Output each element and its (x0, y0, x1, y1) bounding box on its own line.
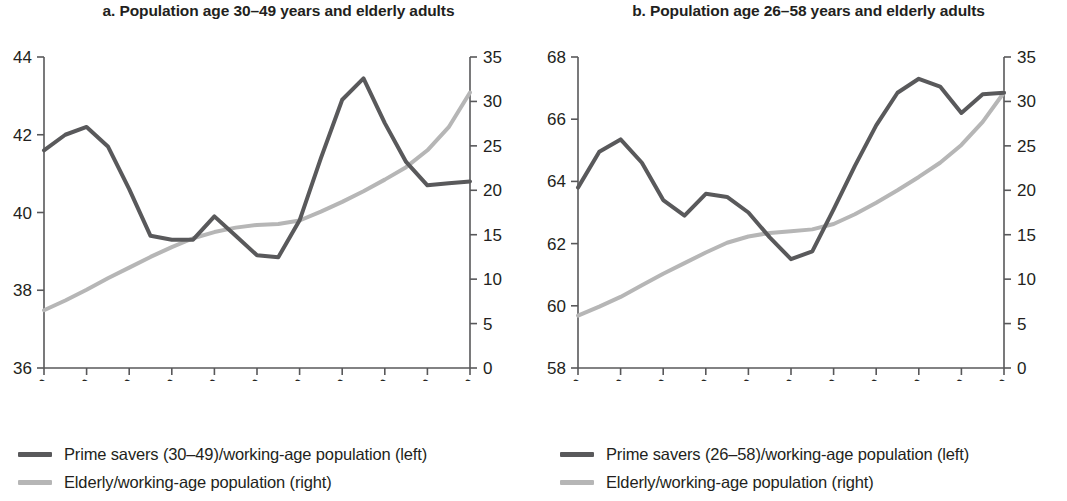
legend-swatch-elderly (18, 480, 52, 485)
panel-b-plot: 5860626466680510152025303519501960197019… (534, 26, 1067, 381)
panel-a: a. Population age 30–49 years and elderl… (0, 0, 533, 501)
ytick-right-35: 35 (1017, 48, 1036, 67)
xtick-1990: 1990 (187, 375, 223, 381)
legend-swatch-prime-savers (18, 452, 52, 457)
panel-b: b. Population age 26–58 years and elderl… (534, 0, 1067, 501)
ytick-right-10: 10 (483, 270, 502, 289)
ytick-left-62: 62 (547, 235, 566, 254)
ytick-right-10: 10 (1017, 270, 1036, 289)
xtick-1970: 1970 (636, 375, 672, 381)
ytick-left-42: 42 (13, 126, 32, 145)
xtick-1960: 1960 (59, 375, 95, 381)
ytick-left-40: 40 (13, 204, 32, 223)
xtick-2030: 2030 (891, 375, 927, 381)
ytick-right-25: 25 (483, 137, 502, 156)
xtick-2030: 2030 (357, 375, 393, 381)
xtick-1980: 1980 (144, 375, 180, 381)
ytick-left-38: 38 (13, 281, 32, 300)
xtick-2040: 2040 (400, 375, 436, 381)
legend-swatch-elderly (560, 480, 594, 485)
xtick-2050: 2050 (443, 375, 479, 381)
ytick-right-15: 15 (483, 226, 502, 245)
ytick-right-5: 5 (1017, 315, 1026, 334)
panel-a-title: a. Population age 30–49 years and elderl… (0, 2, 545, 20)
figure-root: a. Population age 30–49 years and elderl… (0, 0, 1067, 501)
ytick-left-44: 44 (13, 48, 32, 67)
xtick-2010: 2010 (272, 375, 308, 381)
xtick-2010: 2010 (806, 375, 842, 381)
ytick-left-58: 58 (547, 359, 566, 378)
legend-label-prime-savers: Prime savers (30–49)/working-age populat… (64, 445, 427, 464)
xtick-1960: 1960 (593, 375, 629, 381)
xtick-2040: 2040 (934, 375, 970, 381)
legend-item-elderly: Elderly/working-age population (right) (0, 468, 533, 496)
xtick-2000: 2000 (764, 375, 800, 381)
ytick-right-20: 20 (483, 181, 502, 200)
panel-b-legend: Prime savers (26–58)/working-age populat… (534, 440, 1067, 496)
legend-label-prime-savers: Prime savers (26–58)/working-age populat… (606, 445, 969, 464)
ytick-right-25: 25 (1017, 137, 1036, 156)
ytick-right-20: 20 (1017, 181, 1036, 200)
ytick-right-5: 5 (483, 315, 492, 334)
xtick-2000: 2000 (230, 375, 266, 381)
series-line-elderly (578, 93, 1004, 316)
xtick-1980: 1980 (678, 375, 714, 381)
xtick-2020: 2020 (315, 375, 351, 381)
legend-label-elderly: Elderly/working-age population (right) (64, 473, 332, 492)
series-line-elderly (44, 93, 470, 311)
ytick-right-35: 35 (483, 48, 502, 67)
xtick-2050: 2050 (977, 375, 1013, 381)
xtick-1970: 1970 (102, 375, 138, 381)
ytick-right-30: 30 (483, 92, 502, 111)
ytick-right-0: 0 (483, 359, 492, 378)
xtick-1990: 1990 (721, 375, 757, 381)
xtick-2020: 2020 (849, 375, 885, 381)
ytick-right-30: 30 (1017, 92, 1036, 111)
ytick-right-0: 0 (1017, 359, 1026, 378)
panel-b-title: b. Population age 26–58 years and elderl… (534, 2, 1067, 20)
legend-item-prime-savers: Prime savers (26–58)/working-age populat… (534, 440, 1067, 468)
panel-a-legend: Prime savers (30–49)/working-age populat… (0, 440, 533, 496)
ytick-left-64: 64 (547, 172, 566, 191)
ytick-left-60: 60 (547, 297, 566, 316)
legend-swatch-prime-savers (560, 452, 594, 457)
legend-item-prime-savers: Prime savers (30–49)/working-age populat… (0, 440, 533, 468)
legend-item-elderly: Elderly/working-age population (right) (534, 468, 1067, 496)
panel-a-svg: 3638404244051015202530351950196019701980… (0, 26, 533, 381)
ytick-left-36: 36 (13, 359, 32, 378)
ytick-right-15: 15 (1017, 226, 1036, 245)
legend-label-elderly: Elderly/working-age population (right) (606, 473, 874, 492)
ytick-left-66: 66 (547, 110, 566, 129)
panel-b-svg: 5860626466680510152025303519501960197019… (534, 26, 1067, 381)
panel-a-plot: 3638404244051015202530351950196019701980… (0, 26, 533, 381)
ytick-left-68: 68 (547, 48, 566, 67)
